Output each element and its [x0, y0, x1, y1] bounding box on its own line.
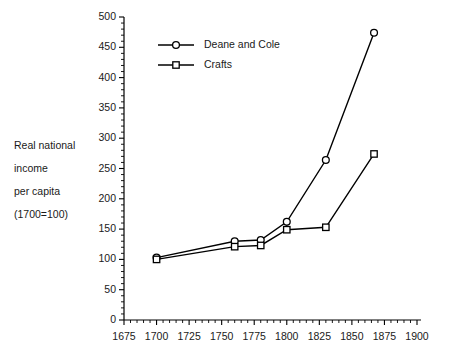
- legend-icon-circle: [173, 42, 180, 49]
- data-point-marker-square: [258, 242, 264, 248]
- y-tick-label: 500: [78, 10, 116, 22]
- legend-icon-square: [173, 62, 179, 68]
- data-point-marker-circle: [371, 29, 378, 36]
- series-line-1: [157, 154, 374, 259]
- y-tick-label: 400: [78, 71, 116, 83]
- data-point-marker-square: [371, 151, 377, 157]
- y-tick-label: 200: [78, 192, 116, 204]
- legend-label-1: Crafts: [204, 58, 232, 70]
- x-tick-label: 1900: [397, 330, 437, 342]
- series-line-0: [157, 33, 374, 258]
- data-point-marker-square: [231, 243, 237, 249]
- y-tick-label: 450: [78, 40, 116, 52]
- y-tick-label: 50: [78, 283, 116, 295]
- data-point-marker-square: [323, 224, 329, 230]
- y-tick-label: 250: [78, 162, 116, 174]
- data-point-marker-square: [284, 227, 290, 233]
- y-tick-label: 150: [78, 222, 116, 234]
- y-tick-label: 350: [78, 101, 116, 113]
- plot-area: [0, 0, 451, 360]
- data-point-marker-circle: [322, 157, 329, 164]
- y-tick-label: 0: [78, 313, 116, 325]
- chart-container: Real national income per capita (1700=10…: [0, 0, 451, 360]
- data-point-marker-circle: [283, 218, 290, 225]
- legend-label-0: Deane and Cole: [204, 38, 280, 50]
- y-tick-label: 300: [78, 131, 116, 143]
- y-tick-label: 100: [78, 252, 116, 264]
- data-point-marker-square: [153, 256, 159, 262]
